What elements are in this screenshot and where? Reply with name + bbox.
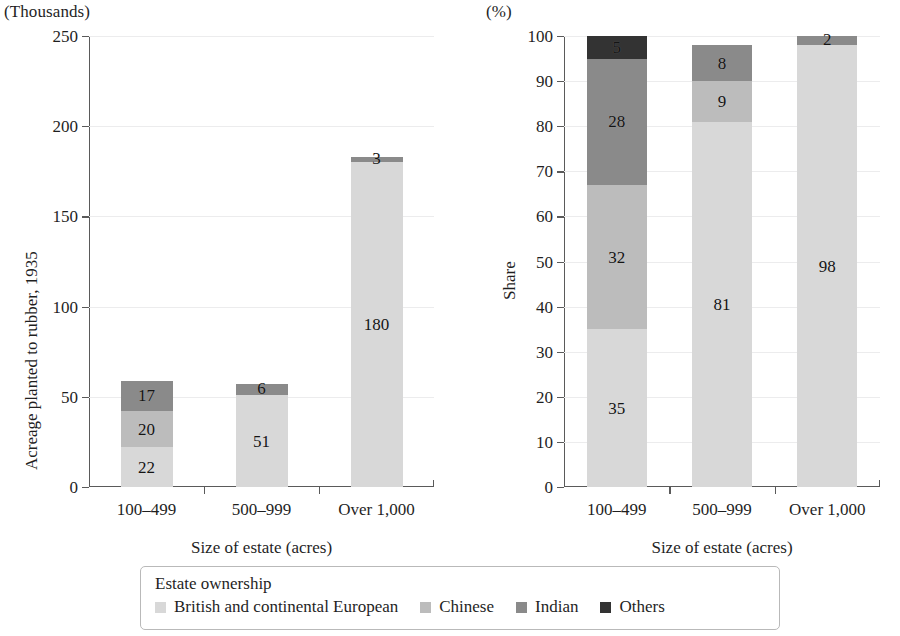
right-unit-label: (%) (486, 2, 512, 22)
y-axis-tick-label: 150 (53, 208, 79, 225)
legend-item-others[interactable]: Others (600, 597, 664, 617)
y-axis-tick-label: 200 (53, 118, 79, 135)
stacked-bar-figure: (Thousands) Acreage planted to rubber, 1… (0, 0, 900, 636)
y-axis-tick-label: 0 (545, 479, 554, 496)
legend-item-label: Others (619, 597, 664, 617)
bar-segment[interactable]: 3 (351, 157, 403, 162)
left-y-axis-title: Acreage planted to rubber, 1935 (22, 251, 42, 470)
legend-box: Estate ownership British and continental… (140, 566, 780, 630)
y-axis-tick (557, 36, 564, 37)
legend-item-chinese[interactable]: Chinese (420, 597, 494, 617)
legend-item-british[interactable]: British and continental European (155, 597, 398, 617)
y-axis-tick (557, 487, 564, 488)
legend-swatch-icon (155, 602, 166, 613)
y-axis-tick (557, 352, 564, 353)
y-axis-tick-label: 30 (536, 343, 553, 360)
y-axis-tick (557, 126, 564, 127)
y-axis-tick-label: 250 (53, 28, 79, 45)
y-axis-tick (557, 171, 564, 172)
y-axis-tick-label: 50 (61, 388, 78, 405)
legend-item-indian[interactable]: Indian (516, 597, 578, 617)
y-axis-tick-label: 0 (70, 479, 79, 496)
y-axis-tick (557, 442, 564, 443)
x-axis-tick-label: 100–499 (117, 500, 177, 520)
bar-segment[interactable]: 51 (236, 395, 288, 487)
bar-value-label: 3 (372, 150, 381, 167)
bar-value-label: 20 (138, 421, 155, 438)
bar-value-label: 9 (718, 93, 727, 110)
x-axis-tick (775, 487, 776, 494)
y-axis-tick (557, 307, 564, 308)
bar-value-label: 17 (138, 387, 155, 404)
legend-items: British and continental EuropeanChineseI… (155, 597, 765, 617)
bar-value-label: 2 (823, 31, 832, 48)
bar-segment[interactable]: 180 (351, 162, 403, 487)
bar-value-label: 22 (138, 459, 155, 476)
y-axis-tick (82, 36, 89, 37)
bar-segment[interactable]: 9 (692, 81, 752, 122)
left-x-axis-title: Size of estate (acres) (89, 538, 434, 558)
bar-100-499[interactable]: 222017 (121, 36, 173, 487)
bar-segment[interactable]: 20 (121, 411, 173, 447)
y-axis-tick (557, 397, 564, 398)
y-axis-tick (557, 216, 564, 217)
bar-segment[interactable]: 28 (587, 59, 647, 185)
y-axis-tick-label: 60 (536, 208, 553, 225)
y-axis-tick-label: 20 (536, 388, 553, 405)
bar-segment[interactable]: 6 (236, 384, 288, 395)
left-unit-label: (Thousands) (4, 2, 90, 22)
bar-over-1-000[interactable]: 1803 (351, 36, 403, 487)
y-axis-tick (557, 262, 564, 263)
y-axis-tick-label: 40 (536, 298, 553, 315)
legend-swatch-icon (600, 602, 611, 613)
bar-value-label: 5 (612, 39, 621, 56)
x-axis-tick-label: 100–499 (587, 500, 647, 520)
bar-value-label: 98 (819, 258, 836, 275)
x-axis-tick (319, 487, 320, 494)
bar-100-499[interactable]: 3532285 (587, 36, 647, 487)
bar-value-label: 51 (253, 433, 270, 450)
y-axis-tick-label: 90 (536, 73, 553, 90)
bar-segment[interactable]: 81 (692, 122, 752, 487)
y-axis-tick-label: 50 (536, 253, 553, 270)
bar-value-label: 81 (714, 296, 731, 313)
legend-item-label: Chinese (439, 597, 494, 617)
right-x-axis-title: Size of estate (acres) (564, 538, 880, 558)
bar-500-999[interactable]: 516 (236, 36, 288, 487)
x-axis-tick (204, 487, 205, 494)
bar-value-label: 28 (608, 113, 625, 130)
legend-item-label: British and continental European (174, 597, 398, 617)
y-axis-tick-label: 70 (536, 163, 553, 180)
y-axis-tick-label: 80 (536, 118, 553, 135)
right-y-axis-title: Share (500, 261, 520, 300)
y-axis-tick-label: 10 (536, 433, 553, 450)
bar-segment[interactable]: 5 (587, 36, 647, 59)
bar-over-1-000[interactable]: 982 (797, 36, 857, 487)
bar-segment[interactable]: 35 (587, 329, 647, 487)
x-axis-tick (669, 487, 670, 494)
y-axis-tick (557, 81, 564, 82)
bar-segment[interactable]: 17 (121, 381, 173, 412)
left-chart-panel: (Thousands) Acreage planted to rubber, 1… (0, 0, 470, 560)
bar-segment[interactable]: 8 (692, 45, 752, 81)
x-axis-tick-label: Over 1,000 (338, 500, 414, 520)
y-axis-tick (82, 216, 89, 217)
legend-item-label: Indian (535, 597, 578, 617)
bar-segment[interactable]: 2 (797, 36, 857, 45)
left-y-axis-line (89, 36, 90, 487)
x-axis-tick-label: Over 1,000 (789, 500, 865, 520)
x-axis-tick-label: 500–999 (232, 500, 292, 520)
legend-swatch-icon (420, 602, 431, 613)
bar-segment[interactable]: 32 (587, 185, 647, 329)
x-axis-tick-label: 500–999 (692, 500, 752, 520)
bar-value-label: 6 (257, 380, 266, 397)
bar-value-label: 32 (608, 249, 625, 266)
right-x-axis-end-cap (879, 480, 880, 487)
bar-value-label: 35 (608, 400, 625, 417)
y-axis-tick-label: 100 (53, 298, 79, 315)
bar-500-999[interactable]: 8198 (692, 36, 752, 487)
bar-value-label: 180 (364, 316, 390, 333)
y-axis-tick (82, 487, 89, 488)
bar-segment[interactable]: 22 (121, 447, 173, 487)
bar-segment[interactable]: 98 (797, 45, 857, 487)
